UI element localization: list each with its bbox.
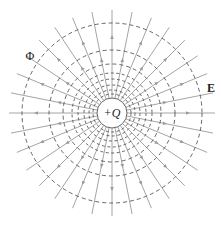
- arrowhead-icon: [100, 58, 104, 62]
- arrowhead-icon: [120, 164, 124, 168]
- arrowhead-icon: [81, 155, 85, 159]
- arrowhead-icon: [110, 187, 114, 191]
- arrowhead-icon: [186, 111, 190, 115]
- arrowhead-icon: [163, 121, 167, 125]
- arrowhead-icon: [154, 82, 158, 86]
- arrowhead-icon: [81, 66, 85, 70]
- arrowhead-icon: [154, 140, 158, 144]
- charge-label: +Q: [104, 106, 121, 120]
- potential-label-phi: Φ: [26, 49, 35, 63]
- arrowhead-icon: [120, 58, 124, 62]
- field-line: [26, 56, 99, 105]
- arrowhead-icon: [34, 111, 38, 115]
- field-line: [123, 40, 185, 102]
- arrowhead-icon: [110, 35, 114, 39]
- arrowhead-icon: [65, 140, 69, 144]
- arrowhead-icon: [100, 164, 104, 168]
- arrowhead-icon: [65, 82, 69, 86]
- arrowhead-icon: [163, 101, 167, 105]
- field-diagram: +Q E Φ: [0, 0, 221, 226]
- field-line: [26, 121, 99, 170]
- arrowhead-icon: [139, 66, 143, 70]
- arrowhead-icon: [139, 155, 143, 159]
- field-label-e: E: [207, 81, 215, 95]
- arrowhead-icon: [57, 121, 61, 125]
- arrowhead-icon: [57, 101, 61, 105]
